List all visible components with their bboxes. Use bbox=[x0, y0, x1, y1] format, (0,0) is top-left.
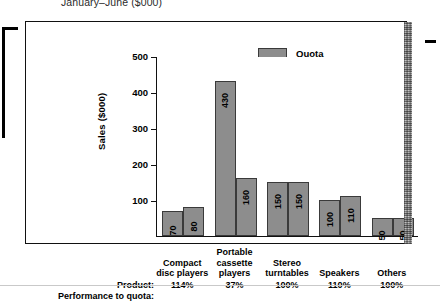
page-divider bbox=[0, 285, 440, 286]
bar-actual[interactable]: 160 bbox=[236, 178, 257, 236]
chart-title: January–June ($000) bbox=[61, 0, 291, 8]
row-label-product: Product: bbox=[26, 269, 154, 291]
bar-group: 430160 bbox=[215, 57, 257, 236]
bar-value-label: 80 bbox=[189, 222, 198, 232]
bar-quota[interactable]: 150 bbox=[267, 182, 288, 236]
bar-value-label: 150 bbox=[273, 194, 282, 209]
bar-group: 100110 bbox=[319, 57, 361, 236]
y-axis-tick bbox=[151, 201, 157, 202]
crop-mark-right bbox=[425, 40, 436, 43]
bar-quota[interactable]: 50 bbox=[372, 218, 393, 236]
bar-value-label: 160 bbox=[242, 190, 251, 205]
y-axis-title: Sales ($000) bbox=[96, 93, 107, 150]
bar-value-label: 50 bbox=[378, 230, 387, 240]
y-axis-tick-label: 400 bbox=[132, 88, 148, 98]
bar-value-label: 430 bbox=[221, 93, 230, 108]
y-axis-tick bbox=[151, 93, 157, 94]
y-axis-tick-label: 500 bbox=[132, 52, 148, 62]
bar-value-label: 70 bbox=[168, 225, 177, 235]
y-axis-tick-label: 100 bbox=[132, 196, 148, 206]
bar-group: 7080 bbox=[162, 57, 204, 236]
x-axis-columns: Compactdisc players114%Portablecassettep… bbox=[156, 247, 418, 305]
bar-quota[interactable]: 430 bbox=[215, 81, 236, 236]
row-label-performance: Performance to quota: bbox=[26, 291, 154, 305]
plot-area: 1002003004005007080430160150150100110505… bbox=[156, 57, 418, 237]
bar-group: 150150 bbox=[267, 57, 309, 236]
bar-actual[interactable]: 80 bbox=[183, 207, 204, 236]
crop-mark-left bbox=[2, 27, 18, 138]
y-axis-tick-label: 300 bbox=[132, 124, 148, 134]
y-axis-tick bbox=[151, 165, 157, 166]
bar-quota[interactable]: 100 bbox=[319, 200, 340, 236]
x-axis-label-table: Product: Performance to quota: Compactdi… bbox=[26, 269, 438, 305]
bar-actual[interactable]: 110 bbox=[340, 196, 361, 236]
x-axis-column: Others100% bbox=[360, 247, 424, 290]
y-axis-tick bbox=[151, 57, 157, 58]
scan-artifact-strip bbox=[404, 22, 412, 244]
chart-frame: Quota Actual Sales ($000) 10020030040050… bbox=[25, 21, 407, 244]
x-axis-row-labels: Product: Performance to quota: bbox=[26, 269, 154, 305]
x-axis-column-name: Others bbox=[360, 268, 424, 279]
bar-value-label: 100 bbox=[325, 212, 334, 227]
bar-actual[interactable]: 150 bbox=[288, 182, 309, 236]
y-axis-tick-label: 200 bbox=[132, 160, 148, 170]
bar-value-label: 110 bbox=[346, 209, 355, 224]
bar-quota[interactable]: 70 bbox=[162, 211, 183, 236]
y-axis-tick bbox=[151, 129, 157, 130]
bar-value-label: 150 bbox=[294, 194, 303, 209]
